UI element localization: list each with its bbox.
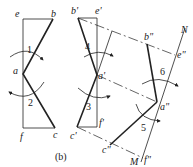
label-a-prime: a' (98, 70, 106, 81)
rotation-number-3: 3 (86, 101, 91, 112)
rotation-arrow-4 (84, 52, 113, 57)
label-b-prime: b' (71, 5, 79, 16)
rotation-number-4: 4 (85, 41, 90, 52)
right-figure: b" e" a" c" f" N M 6 5 (102, 24, 189, 167)
line-b-a (147, 44, 157, 102)
label-e: e (15, 8, 20, 19)
label-c: c (53, 129, 58, 140)
left-figure: e b a f c 1 2 (9, 8, 58, 142)
rotation-arrow-6 (142, 79, 178, 86)
label-b-double-prime: b" (144, 31, 154, 42)
label-f: f (20, 131, 24, 142)
rotation-arrow-3 (78, 88, 110, 98)
label-b: b (51, 8, 56, 19)
rotation-number-5: 5 (141, 122, 146, 133)
label-e-double-prime: e" (177, 49, 186, 60)
middle-figure: b' e' a' c' f' 4 3 (70, 5, 113, 141)
line-a-c (110, 102, 157, 145)
label-N: N (180, 24, 189, 35)
projection-diagram: e b a f c 1 2 b' e' a' c' f' 4 3 b" e" a… (0, 0, 193, 167)
label-a-double-prime: a" (160, 101, 170, 112)
rotation-number-2: 2 (28, 97, 33, 108)
label-e-prime: e' (95, 5, 102, 16)
label-c-prime: c' (70, 130, 77, 141)
label-M: M (129, 156, 139, 167)
projector-a (97, 75, 157, 102)
label-f-prime: f' (99, 117, 105, 128)
rotation-arrow-2 (9, 82, 44, 96)
figure-caption: (b) (55, 151, 67, 163)
label-a: a (13, 65, 18, 76)
label-f-double-prime: f" (144, 154, 152, 165)
label-c-double-prime: c" (102, 144, 111, 155)
rotation-number-1: 1 (27, 44, 32, 55)
line-b-a-c (23, 19, 55, 128)
projector-b-e (78, 18, 175, 55)
rotation-number-6: 6 (160, 66, 165, 77)
rect-e-f-c (23, 19, 55, 128)
